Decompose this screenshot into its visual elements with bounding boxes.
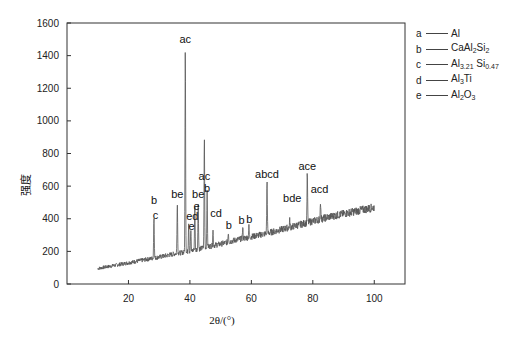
plot-frame xyxy=(67,23,405,284)
x-tick-label: 100 xyxy=(366,293,383,304)
peak-label: be xyxy=(192,188,204,200)
peak-label: b xyxy=(246,213,252,225)
y-tick-label: 200 xyxy=(42,246,59,257)
y-tick-label: 600 xyxy=(42,181,59,192)
y-tick-label: 1400 xyxy=(37,50,60,61)
x-tick-label: 60 xyxy=(246,293,258,304)
legend-connector-line xyxy=(426,33,448,34)
x-axis-title: 2θ/(°) xyxy=(209,314,235,327)
x-tick-label: 80 xyxy=(307,293,319,304)
peak-label: b xyxy=(226,219,232,231)
x-tick-label: 40 xyxy=(184,293,196,304)
legend-key: e xyxy=(416,88,424,104)
y-axis-title: 强度 xyxy=(19,174,32,196)
peak-label: b xyxy=(204,182,210,194)
legend-key: d xyxy=(416,73,424,89)
peak-label: cd xyxy=(210,207,222,219)
legend: aAlbCaAl2Si2cAl3.21 Si0.47dAl3TieAl2O3 xyxy=(416,26,499,104)
y-tick-label: 1000 xyxy=(37,115,60,126)
peak-label: acd xyxy=(311,183,329,195)
peak-label: ac xyxy=(179,33,191,45)
y-tick-label: 800 xyxy=(42,148,59,159)
y-tick-label: 400 xyxy=(42,213,59,224)
peak-label: e xyxy=(188,220,194,232)
peak-label: be xyxy=(171,188,183,200)
legend-connector-line xyxy=(426,49,448,50)
legend-formula: Al2O3 xyxy=(451,87,476,106)
y-tick-label: 1600 xyxy=(37,18,60,29)
legend-key: b xyxy=(416,42,424,58)
peak-label: b xyxy=(238,214,244,226)
xrd-series-line xyxy=(98,53,375,270)
legend-connector-line xyxy=(426,64,448,65)
peak-annotations: acacbbebebceedecdbbbabcdbdeaceacd xyxy=(151,33,329,233)
y-tick-label: 0 xyxy=(53,279,59,290)
peak-label: bde xyxy=(283,192,301,204)
legend-key: c xyxy=(416,57,424,73)
peak-label: ace xyxy=(298,160,316,172)
x-tick-label: 20 xyxy=(123,293,135,304)
peak-label: c xyxy=(153,209,159,221)
legend-connector-line xyxy=(426,80,448,81)
y-tick-label: 1200 xyxy=(37,83,60,94)
peak-label: ac xyxy=(199,170,211,182)
legend-key: a xyxy=(416,26,424,42)
y-axis: 02004006008001000120014001600 xyxy=(37,18,71,290)
legend-connector-line xyxy=(426,95,448,96)
peak-label: b xyxy=(151,194,157,206)
legend-item-e: eAl2O3 xyxy=(416,88,499,104)
peak-label: abcd xyxy=(255,168,279,180)
plot-border xyxy=(67,23,405,284)
